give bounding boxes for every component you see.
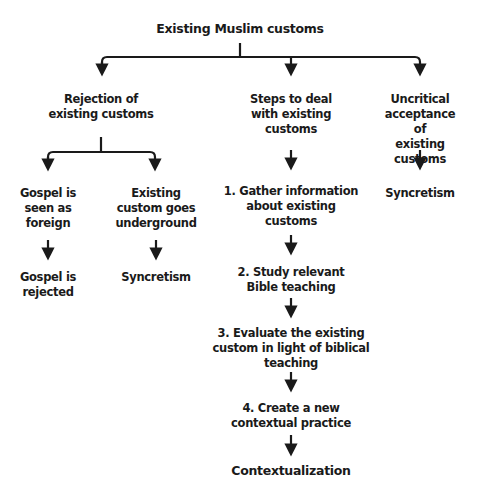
step-1: 1. Gather information about existing cus…: [224, 184, 358, 229]
node-custom-underground: Existing custom goes underground: [115, 186, 196, 231]
outcome-gospel-rejected: Gospel is rejected: [20, 270, 76, 300]
step-4: 4. Create a new contextual practice: [231, 401, 351, 431]
outcome-syncretism-underground: Syncretism: [121, 270, 191, 285]
step-3: 3. Evaluate the existing custom in light…: [213, 326, 370, 371]
rejection-bracket: [48, 152, 155, 165]
root-node: Existing Muslim customs: [156, 21, 323, 36]
outcome-contextualization: Contextualization: [231, 463, 350, 478]
branch-steps: Steps to deal with existing customs: [250, 92, 332, 137]
node-gospel-foreign: Gospel is seen as foreign: [20, 186, 76, 231]
top-bracket: [102, 57, 420, 70]
step-2: 2. Study relevant Bible teaching: [237, 265, 344, 295]
branch-rejection: Rejection of existing customs: [48, 92, 153, 122]
outcome-syncretism-uncritical: Syncretism: [385, 186, 455, 201]
branch-uncritical: Uncritical acceptance of existing custom…: [385, 92, 456, 167]
